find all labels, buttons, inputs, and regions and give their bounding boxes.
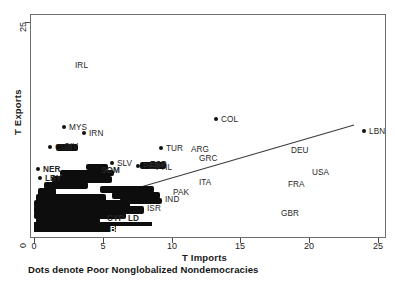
- point-label-NER: NER: [43, 165, 61, 174]
- point-label-USA: USA: [312, 168, 329, 177]
- point-dot-PER: [136, 164, 140, 168]
- point-dot-LBY: [38, 176, 42, 180]
- point-label-COL: COL: [221, 115, 238, 124]
- scatter-plot-figure: T Exports T Imports 25 0 0 5 10 15 20 25: [0, 0, 395, 283]
- point-label-DEU: DEU: [291, 146, 309, 155]
- point-label-CIV: CIV: [64, 142, 78, 151]
- point-dot-CUB: [48, 145, 52, 149]
- point-label-IND: IND: [165, 195, 179, 204]
- point-label-IRL: IRL: [75, 61, 88, 70]
- point-dot-TUR: [159, 146, 163, 150]
- point-label-ARG: ARG: [191, 145, 209, 154]
- x-tick-label-0: 0: [31, 241, 36, 251]
- x-tick-label-10: 10: [167, 241, 177, 251]
- point-dot-LBN: [362, 129, 366, 133]
- point-label-GRC: GRC: [199, 154, 218, 163]
- point-dot-COL: [214, 117, 218, 121]
- point-label-LBY: LBY: [45, 174, 62, 183]
- point-label-CYP: CYP: [107, 214, 124, 223]
- y-tick-label-25: 25: [18, 22, 28, 32]
- point-dot-MYS: [62, 125, 66, 129]
- axis-floor-band: [34, 225, 116, 232]
- x-tick-label-25: 25: [373, 241, 383, 251]
- point-label-GBR: GBR: [281, 209, 299, 218]
- point-dot-NER: [36, 167, 40, 171]
- point-label-ITA: ITA: [199, 178, 211, 187]
- point-label-PHL: PHL: [156, 163, 172, 172]
- x-tick-label-20: 20: [304, 241, 314, 251]
- point-label-LD: LD: [128, 214, 139, 223]
- point-label-FRA: FRA: [288, 180, 305, 189]
- point-dot-SLV: [110, 161, 114, 165]
- x-axis-title: T Imports: [182, 252, 227, 263]
- figure-caption: Dots denote Poor Nonglobalized Nondemocr…: [28, 264, 258, 275]
- point-label-LBN: LBN: [369, 127, 385, 136]
- point-label-TUR: TUR: [166, 144, 183, 153]
- point-dot-IRN: [82, 131, 86, 135]
- y-tick-label-0: 0: [18, 243, 28, 248]
- point-label-IRN: IRN: [89, 129, 103, 138]
- x-tick-label-15: 15: [235, 241, 245, 251]
- axis-floor-band-2: [34, 222, 152, 226]
- y-axis-title: T Exports: [12, 89, 23, 135]
- x-tick-label-5: 5: [100, 241, 105, 251]
- point-label-SOM: SOM: [101, 166, 120, 175]
- point-label-ISR: ISR: [147, 204, 161, 213]
- point-label-B: B: [110, 225, 116, 234]
